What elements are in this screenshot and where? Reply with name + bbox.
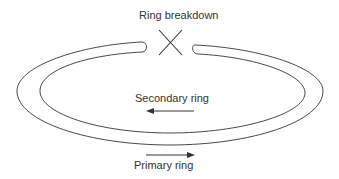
ring-diagram <box>0 0 339 179</box>
secondary-arrow-icon <box>146 108 194 114</box>
primary-arrow-icon <box>146 152 195 158</box>
ring-breakdown-label: Ring breakdown <box>139 9 219 21</box>
break-x-icon <box>159 30 182 55</box>
primary-ring-label: Primary ring <box>134 159 193 171</box>
secondary-ring-label: Secondary ring <box>135 92 209 104</box>
